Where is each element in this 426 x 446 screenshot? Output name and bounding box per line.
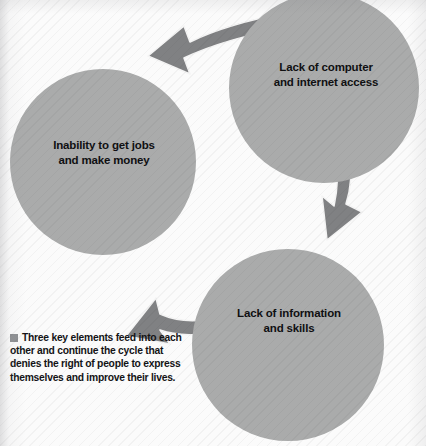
node-circle-computer xyxy=(229,0,419,183)
node-label-info: Lack of information and skills xyxy=(200,306,378,336)
node-circle-info xyxy=(192,249,384,441)
square-bullet-icon xyxy=(10,334,18,342)
node-label-computer: Lack of computer and internet access xyxy=(236,60,416,90)
diagram-caption: Three key elements feed into each other … xyxy=(10,331,182,384)
diagram-page: Lack of computer and internet access Ina… xyxy=(0,0,426,446)
node-label-jobs: Inability to get jobs and make money xyxy=(14,138,194,168)
caption-text: Three key elements feed into each other … xyxy=(10,332,181,383)
